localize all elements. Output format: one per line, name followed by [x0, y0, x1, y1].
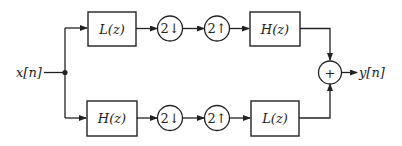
bottom-to-sum-arrow: [299, 84, 330, 118]
top-to-sum-arrow: [300, 29, 330, 61]
summer-node: +: [319, 61, 342, 84]
filter-bank-diagram: x[n] L(z) 2↓ 2↑ H(z) H(z) 2↓ 2↑ L(z: [0, 0, 402, 146]
top-upsampler: 2↑: [205, 16, 230, 41]
bottom-synthesis-filter-block: L(z): [251, 101, 299, 136]
bottom-upsampler-label: 2↑: [207, 111, 226, 126]
bottom-synthesis-filter-label: L(z): [261, 111, 288, 126]
bottom-downsampler-label: 2↓: [160, 111, 179, 126]
top-upsampler-label: 2↑: [207, 21, 226, 36]
top-synthesis-filter-label: H(z): [260, 22, 289, 37]
bottom-analysis-filter-block: H(z): [87, 101, 137, 136]
top-analysis-filter-block: L(z): [88, 12, 136, 46]
bottom-downsampler: 2↓: [158, 106, 183, 131]
input-label: x[n]: [16, 65, 43, 80]
output-label: y[n]: [358, 65, 386, 80]
bottom-upsampler: 2↑: [205, 106, 230, 131]
top-synthesis-filter-block: H(z): [250, 12, 300, 46]
bottom-analysis-filter-label: H(z): [97, 111, 126, 126]
top-analysis-filter-label: L(z): [98, 22, 125, 37]
plus-icon: +: [325, 66, 336, 81]
top-downsampler-label: 2↓: [160, 21, 179, 36]
top-downsampler: 2↓: [158, 16, 183, 41]
